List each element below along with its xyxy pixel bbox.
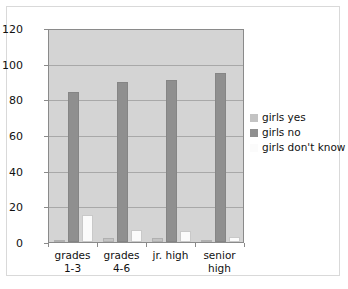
y-axis-tick-label: 120 xyxy=(2,23,23,36)
y-axis-tick-label: 80 xyxy=(9,94,23,107)
bar-girls-no xyxy=(166,80,177,242)
x-axis-tick-mark xyxy=(195,243,196,247)
legend-item: girls yes xyxy=(250,111,345,126)
bar-girls-yes xyxy=(54,240,65,242)
bar-girls-don-t-know xyxy=(131,230,142,242)
x-axis-tick-mark xyxy=(244,243,245,247)
bar-girls-don-t-know xyxy=(229,237,240,242)
x-axis-category-label: grades 4-6 xyxy=(97,249,146,275)
legend-item: girls don't know xyxy=(250,141,345,156)
bar-girls-no xyxy=(117,82,128,243)
y-axis-tick-label: 40 xyxy=(9,165,23,178)
legend-label: girls no xyxy=(262,126,301,138)
x-axis-tick-mark xyxy=(48,243,49,247)
chart-frame: 020406080100120 grades 1-3grades 4-6jr. … xyxy=(6,6,340,276)
y-axis-tick-label: 60 xyxy=(9,130,23,143)
bar-group xyxy=(49,30,98,242)
bar-girls-yes xyxy=(152,238,163,242)
bar-group xyxy=(147,30,196,242)
legend-swatch-icon xyxy=(250,114,258,122)
legend-label: girls don't know xyxy=(262,141,345,153)
legend-swatch-icon xyxy=(250,129,258,137)
bar-girls-no xyxy=(68,92,79,242)
bar-group xyxy=(196,30,245,242)
x-axis-tick-mark xyxy=(146,243,147,247)
legend-label: girls yes xyxy=(262,111,306,123)
bar-girls-no xyxy=(215,73,226,242)
legend-swatch-icon xyxy=(250,144,258,152)
bar-girls-don-t-know xyxy=(180,231,191,242)
x-axis-tick-mark xyxy=(97,243,98,247)
bar-girls-yes xyxy=(103,238,114,242)
bar-girls-yes xyxy=(201,240,212,242)
y-axis-tick-label: 0 xyxy=(16,237,23,250)
y-axis-tick-label: 20 xyxy=(9,201,23,214)
legend-item: girls no xyxy=(250,126,345,141)
x-axis-category-label: jr. high xyxy=(146,249,195,262)
plot-area xyxy=(48,29,244,243)
bar-group xyxy=(98,30,147,242)
x-axis-category-label: senior high xyxy=(195,249,244,275)
y-axis-tick-label: 100 xyxy=(2,58,23,71)
bar-girls-don-t-know xyxy=(82,215,93,242)
y-axis: 020406080100120 xyxy=(7,7,48,245)
x-axis-category-label: grades 1-3 xyxy=(48,249,97,275)
chart-legend: girls yesgirls nogirls don't know xyxy=(250,111,345,156)
